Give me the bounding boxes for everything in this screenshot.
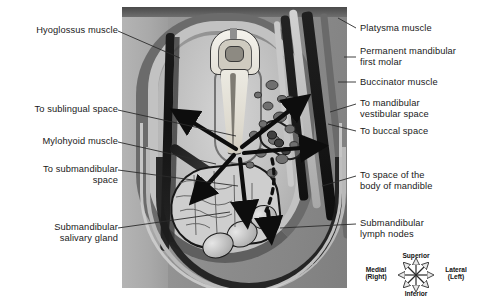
label-submandibular-salivary-gland: Submandibular salivary gland (6, 222, 118, 244)
label-buccinator-muscle: Buccinator muscle (360, 77, 438, 88)
leader-hyoglossus (118, 31, 180, 58)
label-to-submandibular-space: To submandibular space (6, 164, 118, 186)
leader-submandibular-space (118, 170, 238, 186)
label-mylohyoid-muscle: Mylohyoid muscle (6, 136, 118, 147)
orientation-compass: Superior Inferior Medial (Right) Lateral… (358, 252, 474, 298)
leader-platysma (338, 18, 356, 28)
compass-label-lateral: Lateral (Left) (438, 266, 474, 281)
label-to-buccal-space: To buccal space (360, 126, 428, 137)
leader-sublingual (118, 110, 236, 136)
label-to-space-of-body-of-mandible: To space of the body of mandible (360, 170, 432, 192)
leader-mylohyoid (118, 142, 216, 164)
label-to-sublingual-space: To sublingual space (6, 104, 118, 115)
label-submandibular-lymph-nodes: Submandibular lymph nodes (360, 218, 424, 240)
leader-body-of-mandible (322, 176, 356, 186)
anatomy-figure: Hyoglossus muscle To sublingual space My… (0, 0, 478, 302)
leader-buccal-space (328, 124, 356, 131)
leader-lymph-nodes (280, 224, 356, 228)
compass-label-inferior: Inferior (388, 290, 444, 297)
label-platysma-muscle: Platysma muscle (360, 23, 432, 34)
compass-label-medial: Medial (Right) (358, 266, 394, 281)
compass-label-superior: Superior (388, 252, 444, 259)
label-hyoglossus-muscle: Hyoglossus muscle (6, 25, 118, 36)
leader-salivary-gland (118, 212, 230, 228)
leader-vestibular-space (330, 104, 356, 112)
label-to-mandibular-vestibular-space: To mandibular vestibular space (360, 98, 429, 120)
label-permanent-mandibular-first-molar: Permanent mandibular first molar (360, 46, 456, 68)
